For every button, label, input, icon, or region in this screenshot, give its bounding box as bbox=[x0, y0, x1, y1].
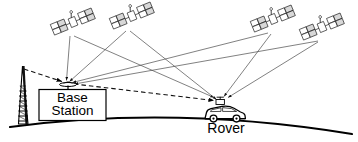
base-station-label-line2: Station bbox=[51, 103, 93, 118]
diagram-canvas: Base Station bbox=[0, 0, 358, 142]
rover-label: Rover bbox=[207, 120, 245, 136]
signal-sat3-to-rover bbox=[224, 34, 271, 97]
satellite-2 bbox=[107, 0, 154, 29]
signal-sat4-to-base bbox=[75, 41, 319, 84]
satellite-3 bbox=[248, 0, 295, 32]
gnss-scene-svg: Base Station bbox=[0, 0, 358, 142]
dashed-link-tower-to-base-antenna bbox=[24, 69, 62, 82]
satellite-4 bbox=[297, 8, 344, 40]
rover-antenna-icon bbox=[216, 97, 224, 105]
signal-sat3-to-base bbox=[73, 33, 269, 83]
lattice-tower-icon bbox=[18, 66, 28, 124]
signal-sat2-to-base bbox=[70, 31, 127, 82]
signal-sat4-to-rover bbox=[228, 42, 318, 98]
signal-sat1-to-base bbox=[67, 36, 71, 81]
base-station-group: Base Station bbox=[18, 66, 106, 124]
rover-group: Rover bbox=[205, 97, 245, 136]
satellite-1 bbox=[48, 3, 95, 35]
signal-sat2-to-rover bbox=[130, 31, 217, 100]
signal-sat1-to-rover bbox=[74, 36, 214, 98]
